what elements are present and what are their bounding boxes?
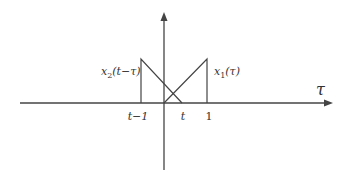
tick-label-t-minus-1: t−1 — [128, 110, 149, 123]
vertical-axis-arrow-icon — [161, 12, 168, 21]
x2-shifted-curve — [141, 59, 182, 103]
x1-curve — [164, 59, 207, 103]
convolution-diagram: τ x2(t−τ) x1(τ) t−1 t 1 — [0, 0, 347, 176]
tau-axis-arrow-icon — [324, 100, 333, 107]
x1-label: x1(τ) — [214, 65, 240, 80]
x2-label: x2(t−τ) — [101, 65, 141, 80]
tick-label-t: t — [181, 110, 186, 123]
tau-axis-label: τ — [316, 80, 326, 99]
tick-label-1: 1 — [206, 110, 213, 123]
